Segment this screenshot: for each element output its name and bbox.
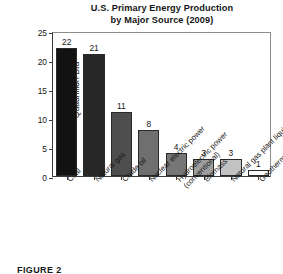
bar-slot: 8 <box>135 33 162 176</box>
bar-slot: 21 <box>80 33 107 176</box>
bar[interactable] <box>83 54 104 176</box>
chart-figure: U.S. Primary Energy Production by Major … <box>0 0 283 274</box>
figure-caption: FIGURE 2 <box>17 265 62 274</box>
bar-value-label: 21 <box>80 43 107 53</box>
y-axis-tick-label: 20 <box>38 57 47 67</box>
y-axis-tick-label: 5 <box>42 144 47 154</box>
y-axis-tick-label: 25 <box>38 28 47 38</box>
plot-area: Quadrillion Btu 0510152025 22211184331 <box>52 32 271 177</box>
x-axis-category-labels: CoalNatural gasCrude oilNuclear electric… <box>52 178 283 266</box>
bar-value-label: 11 <box>108 101 135 111</box>
bar-value-label: 8 <box>135 119 162 129</box>
bar-value-label: 22 <box>53 37 80 47</box>
chart-title-line-1: U.S. Primary Energy Production <box>52 3 272 15</box>
y-axis-tick-label: 0 <box>42 173 47 183</box>
bar-series: 22211184331 <box>53 33 270 176</box>
chart-title: U.S. Primary Energy Production by Major … <box>52 3 272 26</box>
bar-slot: 22 <box>53 33 80 176</box>
y-axis-tick-label: 15 <box>38 86 47 96</box>
bar[interactable] <box>56 48 77 176</box>
chart-title-line-2: by Major Source (2009) <box>52 15 272 27</box>
y-axis-tick-label: 10 <box>38 115 47 125</box>
